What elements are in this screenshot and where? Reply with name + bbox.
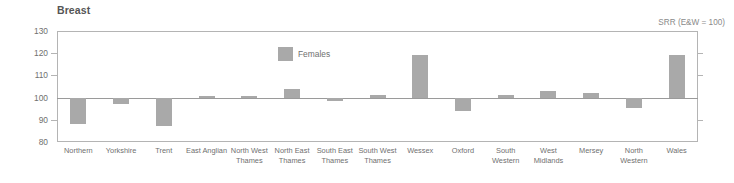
bar-wales xyxy=(669,55,685,97)
x-axis-label-line: Northern xyxy=(57,146,100,156)
y-tick-label-120: 120 xyxy=(22,49,48,57)
x-axis-label-line: Oxford xyxy=(442,146,485,156)
bar-south-western xyxy=(498,95,514,97)
x-axis-label-line: Wessex xyxy=(399,146,442,156)
bar-mersey xyxy=(583,93,599,97)
y-tick-label-100: 100 xyxy=(22,94,48,102)
bar-south-west-thames xyxy=(370,95,386,97)
bar-northern xyxy=(70,98,86,125)
y-tick-label-90: 90 xyxy=(22,116,48,124)
bar-yorkshire xyxy=(113,98,129,105)
x-axis-label-line: Thames xyxy=(271,156,314,166)
bar-north-west-thames xyxy=(241,96,257,98)
x-axis-label-south-west-thames: South WestThames xyxy=(356,146,399,166)
legend-label-females: Females xyxy=(298,49,330,59)
bar-east-anglian xyxy=(199,96,215,98)
x-axis-label-line: Trent xyxy=(142,146,185,156)
x-axis-label-wessex: Wessex xyxy=(399,146,442,156)
x-axis-label-line: Thames xyxy=(313,156,356,166)
chart-legend: Females xyxy=(278,47,330,61)
x-axis-label-line: South East xyxy=(313,146,356,156)
x-axis-label-mersey: Mersey xyxy=(570,146,613,156)
bar-oxford xyxy=(455,98,471,111)
x-axis-label-north-west-thames: North WestThames xyxy=(228,146,271,166)
x-axis-label-north-western: North Western xyxy=(613,146,656,166)
x-axis-label-line: Yorkshire xyxy=(100,146,143,156)
x-axis-label-line: Thames xyxy=(356,156,399,166)
x-axis-label-line: North Western xyxy=(613,146,656,166)
x-axis-label-line: Midlands xyxy=(527,156,570,166)
x-axis-label-yorkshire: Yorkshire xyxy=(100,146,143,156)
x-axis-label-west-midlands: WestMidlands xyxy=(527,146,570,166)
bar-south-east-thames xyxy=(327,98,343,101)
legend-swatch-females xyxy=(278,47,293,61)
bar-trent xyxy=(156,98,172,127)
y-tick-label-80: 80 xyxy=(22,138,48,146)
x-axis-label-line: South West xyxy=(356,146,399,156)
y-tick-label-130: 130 xyxy=(22,27,48,35)
x-axis-labels: NorthernYorkshireTrentEast AnglianNorth … xyxy=(57,146,698,178)
x-axis-label-line: South xyxy=(484,146,527,156)
x-axis-label-line: Wales xyxy=(655,146,698,156)
x-axis-label-line: Western xyxy=(484,156,527,166)
bar-north-western xyxy=(626,98,642,108)
x-axis-label-line: North East xyxy=(271,146,314,156)
x-axis-label-line: North West xyxy=(228,146,271,156)
x-axis-label-line: East Anglian xyxy=(185,146,228,156)
x-axis-label-trent: Trent xyxy=(142,146,185,156)
bar-north-east-thames xyxy=(284,89,300,98)
x-axis-label-south-east-thames: South EastThames xyxy=(313,146,356,166)
x-axis-label-line: Thames xyxy=(228,156,271,166)
y-tick-label-110: 110 xyxy=(22,71,48,79)
x-axis-label-north-east-thames: North EastThames xyxy=(271,146,314,166)
x-axis-label-oxford: Oxford xyxy=(442,146,485,156)
x-axis-label-line: West xyxy=(527,146,570,156)
x-axis-label-wales: Wales xyxy=(655,146,698,156)
bars-layer xyxy=(57,31,698,142)
x-axis-label-northern: Northern xyxy=(57,146,100,156)
x-axis-label-east-anglian: East Anglian xyxy=(185,146,228,156)
bar-west-midlands xyxy=(540,91,556,98)
chart-figure: Breast SRR (E&W = 100) 8090100110120130 … xyxy=(0,0,734,183)
x-axis-label-line: Mersey xyxy=(570,146,613,156)
bar-wessex xyxy=(412,55,428,97)
x-axis-label-south-western: SouthWestern xyxy=(484,146,527,166)
